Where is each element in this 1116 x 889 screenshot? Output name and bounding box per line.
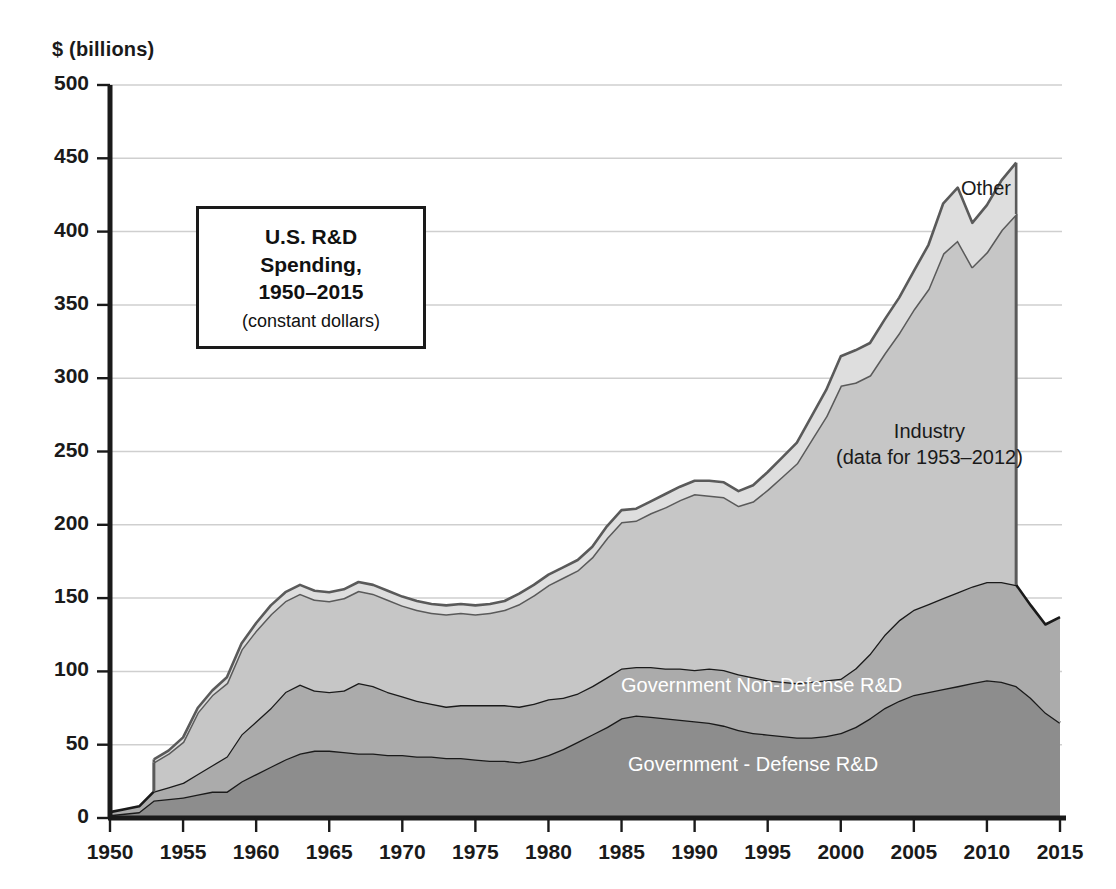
x-tick-label: 1970: [367, 840, 437, 864]
y-tick-label: 100: [27, 657, 89, 681]
series-label-industry-line-2: (data for 1953–2012): [836, 444, 1023, 470]
y-tick-label: 150: [27, 584, 89, 608]
chart-title-line-2: Spending,: [207, 251, 415, 279]
y-tick-label: 300: [27, 364, 89, 388]
series-label-industry-line-1: Industry: [836, 418, 1023, 444]
x-tick-label: 1985: [587, 840, 657, 864]
chart-subtitle: (constant dollars): [207, 311, 415, 332]
series-label-industry: Industry (data for 1953–2012): [836, 418, 1023, 470]
x-tick-label: 2000: [806, 840, 876, 864]
y-tick-label: 350: [27, 291, 89, 315]
x-tick-label: 1960: [221, 840, 291, 864]
y-tick-label: 50: [27, 731, 89, 755]
y-tick-label: 0: [27, 804, 89, 828]
y-tick-label: 450: [27, 144, 89, 168]
y-tick-label: 200: [27, 511, 89, 535]
chart-title-line-3: 1950–2015: [207, 278, 415, 306]
y-axis-unit-label: $ (billions): [52, 38, 154, 61]
x-tick-label: 1995: [733, 840, 803, 864]
x-tick-label: 1980: [513, 840, 583, 864]
series-label-government-defense: Government - Defense R&D: [628, 751, 878, 777]
x-tick-label: 1955: [148, 840, 218, 864]
chart-page: $ (billions) 500450400350300250200150100…: [0, 0, 1116, 889]
y-tick-label: 500: [27, 71, 89, 95]
x-tick-label: 1975: [440, 840, 510, 864]
series-label-other: Other: [961, 175, 1011, 201]
x-tick-label: 2010: [952, 840, 1022, 864]
x-tick-label: 2015: [1025, 840, 1095, 864]
chart-title-line-1: U.S. R&D: [207, 223, 415, 251]
y-tick-label: 250: [27, 438, 89, 462]
chart-title-box: U.S. R&D Spending, 1950–2015 (constant d…: [196, 206, 426, 349]
x-tick-label: 2005: [879, 840, 949, 864]
series-label-government-non-defense: Government Non-Defense R&D: [621, 672, 902, 698]
x-tick-label: 1965: [294, 840, 364, 864]
x-tick-label: 1950: [75, 840, 145, 864]
x-tick-label: 1990: [660, 840, 730, 864]
y-tick-label: 400: [27, 218, 89, 242]
